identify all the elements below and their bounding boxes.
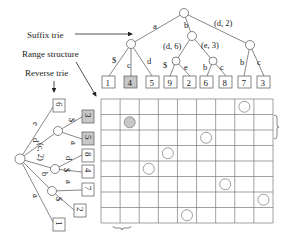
svg-text:a: a (153, 21, 157, 31)
reverse-trie-nodes (15, 127, 63, 196)
grid-point (182, 210, 193, 221)
leaf-label: 8 (83, 152, 93, 157)
svg-text:c: c (127, 60, 131, 70)
svg-text:b: b (40, 172, 50, 176)
svg-text:$: $ (62, 168, 72, 172)
row-range-brace (274, 115, 279, 139)
svg-text:(c, 2): (c, 2) (36, 143, 46, 161)
range-structure-grid (101, 99, 273, 223)
svg-text:(d, 6): (d, 6) (163, 41, 182, 51)
leaf-label: 6 (54, 102, 64, 107)
svg-text:a: a (69, 141, 79, 145)
grid-point (239, 101, 250, 112)
svg-text:$: $ (67, 118, 77, 122)
svg-text:a: a (64, 180, 74, 184)
trie-node (246, 41, 255, 50)
leaf-label: 4 (128, 78, 133, 88)
reverse-trie (20, 107, 82, 222)
leaf-label: 5 (83, 135, 93, 140)
leaf-label: 6 (204, 78, 209, 88)
svg-text:$: $ (54, 197, 64, 201)
leaf-label: 4 (83, 168, 93, 173)
leaf-label: 1 (106, 78, 111, 88)
leaf-label: 3 (83, 113, 93, 118)
svg-text:e: e (31, 122, 41, 126)
grid-point (143, 163, 154, 174)
trie-node (188, 32, 197, 41)
leaf-label: 7 (242, 78, 247, 88)
trie-node (127, 40, 136, 49)
trie-node (172, 57, 180, 65)
label-reverse-trie: Reverse trie (25, 68, 68, 78)
trie-node (51, 165, 60, 174)
svg-text:d: d (147, 56, 152, 66)
suffix-trie-nodes (127, 9, 255, 66)
svg-text:c: c (220, 62, 224, 72)
svg-text:(e, 3): (e, 3) (201, 40, 219, 50)
svg-text:b: b (203, 62, 207, 72)
svg-text:b: b (184, 20, 188, 30)
svg-text:b: b (240, 57, 244, 67)
suffix-trie-leaves: 1 4 5 9 2 6 8 7 3 (102, 76, 270, 88)
grid-point (162, 148, 173, 159)
svg-text:a: a (31, 194, 41, 198)
leaf-label: 2 (75, 207, 85, 212)
svg-text:c: c (257, 57, 261, 67)
leaf-label: 1 (54, 221, 64, 226)
svg-text:$: $ (163, 60, 167, 70)
grid-point (201, 132, 212, 143)
label-range-structure: Range structure (22, 49, 79, 59)
leaf-label: 3 (261, 78, 266, 88)
label-suffix-trie: Suffix trie (27, 30, 64, 40)
trie-node (209, 57, 217, 65)
svg-text:(d, 2): (d, 2) (214, 18, 233, 28)
grid-point (258, 194, 269, 205)
svg-text:$: $ (112, 55, 116, 65)
leaf-label: 8 (223, 78, 228, 88)
trie-node (48, 187, 57, 196)
column-range-brace (113, 226, 131, 230)
diagram-canvas: Suffix trie Range structure Reverse trie (0, 0, 291, 240)
trie-node (15, 154, 25, 164)
grid-point (220, 179, 231, 190)
range-structure-arrow (76, 62, 96, 96)
leaf-label: 5 (150, 78, 155, 88)
trie-node (180, 9, 189, 18)
leaf-label: 2 (187, 78, 192, 88)
svg-text:e: e (184, 62, 188, 72)
leaf-label: 9 (168, 78, 173, 88)
leaf-label: 7 (83, 186, 93, 191)
trie-node (54, 127, 63, 136)
grid-point (124, 117, 135, 128)
